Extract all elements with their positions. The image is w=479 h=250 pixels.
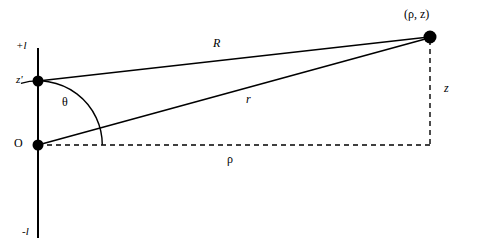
source-point-label: z': [16, 74, 23, 85]
diagram-canvas: [0, 0, 479, 250]
origin-point-dot: [33, 140, 44, 151]
physics-diagram-figure: +l -l z' O θ R r z ρ (ρ, z): [0, 0, 479, 250]
field-point-coordinates-label: (ρ, z): [404, 8, 429, 20]
source-point-dot: [33, 76, 44, 87]
theta-angle-label: θ: [62, 96, 68, 108]
field-point-dot: [424, 31, 437, 44]
wire-top-endpoint-label: +l: [16, 40, 26, 51]
r-distance-label: r: [246, 93, 251, 105]
R-distance-line: [38, 37, 429, 81]
origin-label: O: [14, 137, 23, 149]
r-distance-line: [38, 38, 429, 145]
R-distance-label: R: [213, 37, 220, 49]
wire-bottom-endpoint-label: -l: [22, 226, 29, 237]
z-height-label: z: [444, 82, 449, 94]
rho-radial-label: ρ: [227, 153, 233, 165]
